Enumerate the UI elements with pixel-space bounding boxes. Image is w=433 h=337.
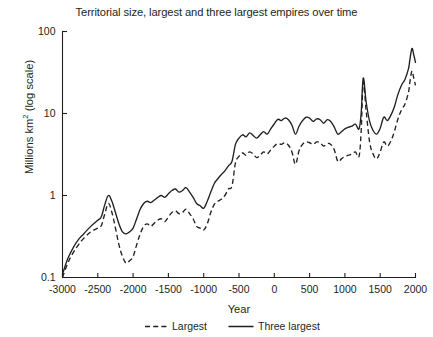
x-tick-label: 500 <box>301 283 319 295</box>
y-tick-label: 10 <box>44 107 56 119</box>
x-tick-label: 1500 <box>369 283 393 295</box>
chart-legend: Largest Three largest <box>145 320 320 332</box>
x-axis-title: Year <box>228 303 251 315</box>
y-tick-label: 100 <box>38 25 56 37</box>
series-line-three-largest <box>63 48 416 274</box>
x-tick-label: -2500 <box>84 283 111 295</box>
x-axis-tick-marks <box>63 273 416 278</box>
x-tick-label: -3000 <box>49 283 76 295</box>
y-tick-label: 0.1 <box>41 271 56 283</box>
legend-label-largest: Largest <box>172 320 207 332</box>
x-tick-label: -500 <box>228 283 249 295</box>
x-axis-tick-labels: -3000-2500-2000-1500-1000-50005001000150… <box>49 283 427 295</box>
y-axis-tick-marks <box>63 32 68 278</box>
x-tick-label: -2000 <box>120 283 147 295</box>
plot-area: 0.1110100 -3000-2500-2000-1500-1000-5000… <box>0 0 433 337</box>
x-tick-label: 2000 <box>404 283 428 295</box>
legend-label-three-largest: Three largest <box>258 320 320 332</box>
chart-figure: Territorial size, largest and three larg… <box>0 0 433 337</box>
x-tick-label: -1000 <box>190 283 217 295</box>
x-tick-label: -1500 <box>155 283 182 295</box>
x-tick-label: 0 <box>271 283 277 295</box>
series-line-largest <box>63 71 416 278</box>
x-tick-label: 1000 <box>333 283 357 295</box>
y-tick-label: 1 <box>50 189 56 201</box>
y-axis-tick-labels: 0.1110100 <box>38 25 56 283</box>
